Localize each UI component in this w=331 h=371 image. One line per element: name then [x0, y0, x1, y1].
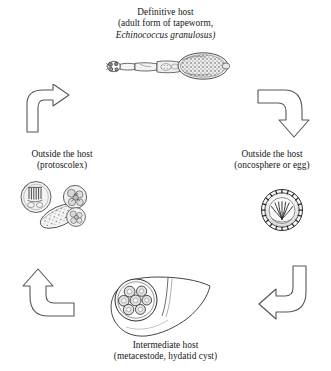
definitive-host-species-name: Echinococcus granulosus) [0, 30, 331, 41]
life-cycle-diagram: Definitive host (adult form of tapeworm,… [0, 0, 331, 371]
arrow-intermediate-host-to-protoscolex-icon [14, 264, 76, 320]
oncosphere-label-line1: Outside the host [213, 149, 331, 160]
protoscolex-label-line2: (protoscolex) [2, 160, 122, 171]
definitive-host-label-line2: (adult form of tapeworm, [0, 18, 331, 29]
protoscolex-label: Outside the host (protoscolex) [2, 149, 122, 172]
adult-tapeworm-illustration [106, 46, 230, 84]
protoscolex-label-line1: Outside the host [2, 149, 122, 160]
oncosphere-label-line2: (oncosphere or egg) [213, 160, 331, 171]
arrow-protoscolex-to-definitive-host-icon [17, 84, 73, 134]
arrow-oncosphere-to-intermediate-host-icon [252, 264, 312, 320]
oncosphere-label: Outside the host (oncosphere or egg) [213, 149, 331, 172]
definitive-host-label-line1: Definitive host [0, 7, 331, 18]
egg-oncosphere-illustration [258, 186, 306, 234]
definitive-host-label: Definitive host (adult form of tapeworm,… [0, 7, 331, 41]
intermediate-host-label-line1: Intermediate host [0, 340, 331, 351]
intermediate-host-label-line2: (metacestode, hydatid cyst) [0, 351, 331, 362]
arrow-definitive-host-to-oncosphere-icon [256, 84, 314, 140]
liver-hydatid-cyst-illustration [96, 274, 216, 340]
intermediate-host-label: Intermediate host (metacestode, hydatid … [0, 340, 331, 363]
protoscolex-illustration [18, 178, 94, 234]
